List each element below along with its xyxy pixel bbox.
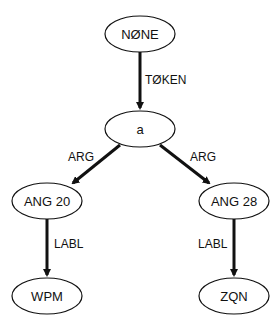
node-label-ang28: ANG 28	[211, 194, 257, 209]
edge-labl-right: LABL	[198, 218, 234, 275]
edge-label-arg-right: ARG	[190, 150, 216, 164]
edge-label-token: TØKEN	[145, 73, 186, 87]
node-ang28: ANG 28	[199, 183, 269, 219]
node-zqn: ZQN	[199, 278, 269, 314]
edge-label-arg-left: ARG	[68, 150, 94, 164]
node-ang20: ANG 20	[12, 183, 82, 219]
edge-token: TØKEN	[140, 52, 186, 108]
edge-arg-right: ARG	[160, 145, 216, 183]
edge-arg-left: ARG	[68, 145, 120, 183]
node-label-zqn: ZQN	[220, 289, 247, 304]
node-label-none: NØNE	[121, 27, 159, 42]
edge-label-labl-right: LABL	[198, 237, 228, 251]
node-wpm: WPM	[12, 278, 82, 314]
node-label-wpm: WPM	[31, 289, 63, 304]
semantic-network-diagram: TØKEN ARG ARG LABL LABL NØNE a ANG 20 AN…	[0, 0, 280, 326]
edge-label-labl-left: LABL	[54, 237, 84, 251]
edge-labl-left: LABL	[47, 218, 84, 275]
node-a: a	[105, 111, 175, 147]
node-label-a: a	[136, 122, 144, 137]
node-label-ang20: ANG 20	[24, 194, 70, 209]
node-none: NØNE	[105, 16, 175, 52]
